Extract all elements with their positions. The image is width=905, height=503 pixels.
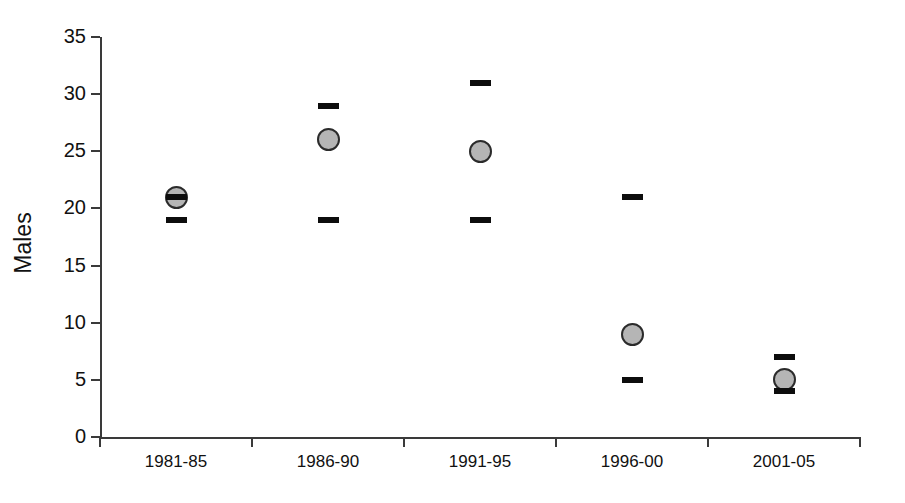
x-tick-mark (859, 437, 861, 447)
data-point-marker (621, 323, 644, 346)
y-tick-mark (91, 93, 100, 95)
x-tick-label: 1986-90 (248, 452, 408, 472)
y-tick-label: 30 (40, 83, 86, 103)
lower-limit-cap (774, 388, 795, 394)
y-tick-label: 20 (40, 197, 86, 217)
lower-limit-cap (318, 217, 339, 223)
y-tick-label: 10 (40, 312, 86, 332)
y-tick-mark (91, 207, 100, 209)
chart-canvas: Males 35302520151050 1981-851986-901991-… (0, 0, 905, 503)
upper-limit-cap (318, 103, 339, 109)
y-tick-label: 15 (40, 255, 86, 275)
lower-limit-cap (622, 377, 643, 383)
upper-limit-cap (166, 194, 187, 200)
y-tick-mark (91, 379, 100, 381)
data-point-marker (317, 128, 340, 151)
lower-limit-cap (470, 217, 491, 223)
y-axis-line (100, 37, 102, 438)
x-tick-label: 1991-95 (400, 452, 560, 472)
upper-limit-cap (774, 354, 795, 360)
upper-limit-cap (470, 80, 491, 86)
y-tick-label: 0 (40, 426, 86, 446)
y-tick-mark (91, 36, 100, 38)
x-axis-line (100, 437, 860, 439)
x-tick-mark (403, 437, 405, 447)
y-tick-mark (91, 265, 100, 267)
y-tick-label: 35 (40, 26, 86, 46)
y-tick-label: 5 (40, 369, 86, 389)
lower-limit-cap (166, 217, 187, 223)
x-tick-label: 1981-85 (96, 452, 256, 472)
x-tick-mark (707, 437, 709, 447)
y-tick-mark (91, 322, 100, 324)
x-tick-mark (251, 437, 253, 447)
x-tick-label: 2001-05 (704, 452, 864, 472)
x-tick-mark (555, 437, 557, 447)
y-tick-label: 25 (40, 140, 86, 160)
y-tick-mark (91, 150, 100, 152)
upper-limit-cap (622, 194, 643, 200)
y-axis-label: Males (10, 178, 38, 308)
data-point-marker (469, 140, 492, 163)
x-tick-mark (99, 437, 101, 447)
x-tick-label: 1996-00 (552, 452, 712, 472)
